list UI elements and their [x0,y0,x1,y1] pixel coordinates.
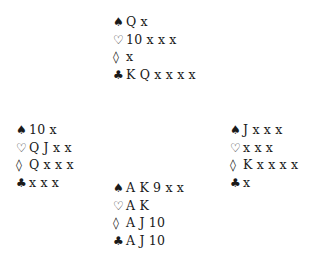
spade-icon: ♠ [113,180,126,198]
heart-icon: ♡ [16,140,29,158]
south-spades: ♠A K 9 x x [113,179,184,197]
east-hand: ♠J x x x ♡x x x ◊K x x x x ♣x [230,121,298,191]
west-spades: ♠10 x [16,121,74,139]
diamond-icon: ◊ [113,49,126,67]
spade-icon: ♠ [16,122,29,140]
east-spades: ♠J x x x [230,121,298,139]
north-hand: ♠Q x ♡10 x x x ◊x ♣K Q x x x x [113,13,196,83]
south-hand: ♠A K 9 x x ♡A K ◊A J 10 ♣A J 10 [113,179,184,249]
south-clubs: ♣A J 10 [113,232,184,250]
spade-icon: ♠ [113,14,126,32]
east-hearts: ♡x x x [230,139,298,157]
north-clubs: ♣K Q x x x x [113,66,196,84]
east-clubs: ♣x [230,174,298,192]
south-diamonds: ◊A J 10 [113,214,184,232]
diamond-icon: ◊ [16,157,29,175]
spade-icon: ♠ [230,122,243,140]
heart-icon: ♡ [113,198,126,216]
west-clubs: ♣x x x [16,174,74,192]
club-icon: ♣ [16,175,29,193]
west-hand: ♠10 x ♡Q J x x ◊Q x x x ♣x x x [16,121,74,191]
diamond-icon: ◊ [230,157,243,175]
club-icon: ♣ [230,175,243,193]
club-icon: ♣ [113,233,126,251]
west-diamonds: ◊Q x x x [16,156,74,174]
south-hearts: ♡A K [113,197,184,215]
north-hearts: ♡10 x x x [113,31,196,49]
north-spades: ♠Q x [113,13,196,31]
club-icon: ♣ [113,67,126,85]
north-diamonds: ◊x [113,48,196,66]
heart-icon: ♡ [230,140,243,158]
east-diamonds: ◊K x x x x [230,156,298,174]
diamond-icon: ◊ [113,215,126,233]
heart-icon: ♡ [113,32,126,50]
west-hearts: ♡Q J x x [16,139,74,157]
